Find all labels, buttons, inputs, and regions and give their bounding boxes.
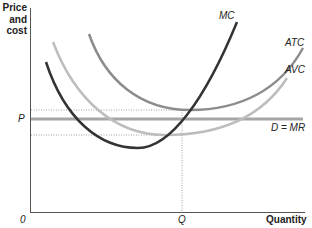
origin-label: 0 [20,214,26,225]
atc-label: ATC [285,37,304,48]
p-tick-label: P [18,113,25,124]
q-tick-label: Q [178,214,186,225]
y-axis-label: Price and cost [0,2,27,37]
mc-label: MC [219,10,235,21]
y-axis-label-line1: Price [0,2,27,14]
y-axis-label-line2: and [0,14,27,26]
cost-curves-chart [0,0,312,228]
y-axis-label-line3: cost [0,25,27,37]
avc-curve [53,42,287,135]
dmr-label: D = MR [271,122,305,133]
avc-label: AVC [285,64,305,75]
x-axis-label: Quantity [266,214,307,225]
